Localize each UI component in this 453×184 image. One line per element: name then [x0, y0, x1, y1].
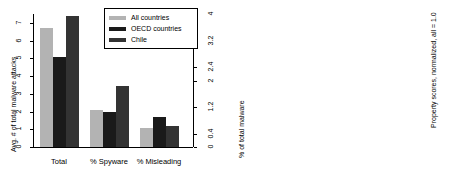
- y-axis-tick-right: [194, 134, 197, 135]
- y-axis-tick-label: 4: [15, 66, 22, 86]
- bar-oecd: [103, 112, 116, 147]
- legend-malware: All countriesOECD countriesChile: [104, 8, 198, 49]
- y-axis-label-property: Property scores, normalized, all = 1.0: [430, 12, 437, 128]
- y-axis-tick: [30, 23, 33, 24]
- legend-swatch-chile-icon: [109, 38, 126, 42]
- y-axis-tick-right: [194, 81, 197, 82]
- legend-label: All countries: [131, 13, 169, 22]
- y-axis-tick: [30, 94, 33, 95]
- x-axis-line: [33, 147, 193, 148]
- legend-swatch-all-icon: [109, 16, 126, 20]
- legend-item-chile: Chile: [109, 34, 192, 45]
- y-axis-tick: [30, 129, 33, 130]
- y-axis-tick-label: 7: [15, 12, 22, 32]
- y-axis-tick: [30, 41, 33, 42]
- y-axis-tick-label: 1: [15, 119, 22, 139]
- y-axis-tick: [30, 58, 33, 59]
- y-axis-tick-label: 6: [15, 30, 22, 50]
- legend-label: Chile: [131, 35, 147, 44]
- y-axis-tick: [30, 76, 33, 77]
- y-axis-tick-label-right: 1.2: [207, 97, 214, 117]
- y-axis-tick-label: 3: [15, 83, 22, 103]
- y-axis-tick-label-right: 0.4: [207, 123, 214, 143]
- chart-panel-property-scores: Property scores, normalized, all = 1.0 0…: [227, 0, 453, 184]
- figure-container: Avg. # of total malware attacks % of tot…: [0, 0, 453, 184]
- bar-all: [90, 110, 103, 147]
- chart-panel-malware: Avg. # of total malware attacks % of tot…: [0, 0, 226, 184]
- legend-label: OECD countries: [131, 24, 182, 33]
- legend-swatch-oecd-icon: [109, 27, 126, 31]
- y-axis-line: [33, 14, 34, 147]
- y-axis-tick-label: 5: [15, 48, 22, 68]
- bar-oecd: [153, 117, 166, 147]
- bar-all: [40, 28, 53, 147]
- y-axis-tick-label-right: 3.2: [207, 30, 214, 50]
- y-axis-tick-label-right: 2.4: [207, 57, 214, 77]
- legend-item-oecd: OECD countries: [109, 23, 192, 34]
- y-axis-tick-right: [194, 147, 197, 148]
- legend-item-all: All countries: [109, 12, 192, 23]
- y-axis-tick-label-right: 4: [207, 4, 214, 24]
- bar-all: [140, 128, 153, 148]
- y-axis-tick-right: [194, 107, 197, 108]
- bar-chile: [66, 16, 79, 147]
- y-axis-tick-label: 2: [15, 101, 22, 121]
- x-axis-tick-label: % Misleading: [109, 157, 209, 166]
- y-axis-tick-label: 0: [15, 137, 22, 157]
- bar-oecd: [53, 57, 66, 147]
- y-axis-tick-right: [194, 67, 197, 68]
- bar-chile: [166, 126, 179, 147]
- bar-chile: [116, 86, 129, 147]
- y-axis-tick: [30, 112, 33, 113]
